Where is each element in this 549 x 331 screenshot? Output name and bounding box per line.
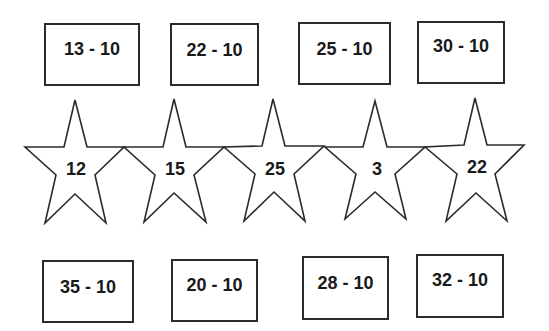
card-expression: 32 - 10 (418, 270, 502, 291)
star-number: 12 (66, 159, 86, 179)
bottom-card-4: 32 - 10 (416, 254, 504, 318)
star-number: 22 (467, 157, 487, 177)
card-expression: 28 - 10 (304, 273, 387, 294)
bottom-card-2: 20 - 10 (171, 259, 258, 322)
star-number: 3 (372, 159, 382, 179)
card-expression: 20 - 10 (173, 275, 256, 296)
star-number: 25 (265, 159, 285, 179)
card-expression: 35 - 10 (44, 277, 132, 298)
bottom-card-3: 28 - 10 (302, 256, 389, 320)
star-number: 15 (165, 159, 185, 179)
bottom-card-1: 35 - 10 (42, 260, 134, 323)
